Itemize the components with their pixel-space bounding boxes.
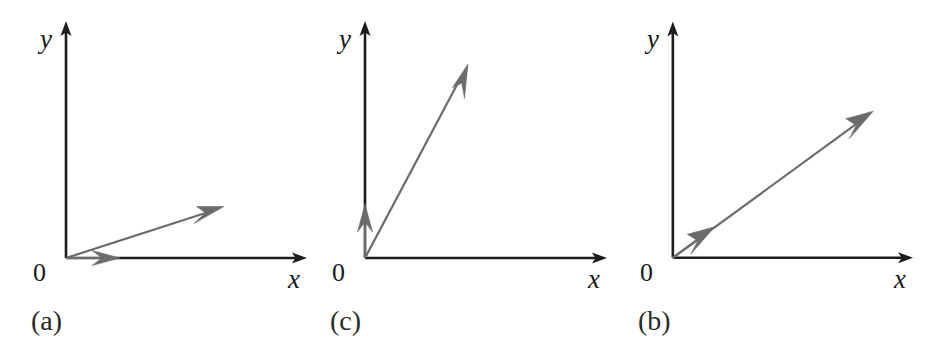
long-vector-arrowhead — [453, 64, 469, 99]
x-axis-label: x — [587, 264, 600, 294]
vector-figure: y x 0 (a) y x 0 (c) — [0, 0, 937, 356]
origin-label: 0 — [33, 258, 46, 287]
short-vector-arrowhead — [687, 227, 714, 254]
origin-label: 0 — [332, 258, 345, 287]
y-axis-label: y — [37, 24, 52, 54]
long-vector-line — [365, 84, 458, 258]
x-axis-label: x — [287, 264, 300, 294]
long-vector-arrowhead — [846, 111, 873, 138]
panel-b: y x 0 (b) — [624, 0, 936, 356]
panel-c-canvas: y x 0 (c) — [312, 0, 624, 356]
panel-a-canvas: y x 0 (a) — [0, 0, 312, 356]
y-axis-label: y — [644, 24, 659, 54]
panel-b-canvas: y x 0 (b) — [624, 0, 936, 356]
panel-c: y x 0 (c) — [312, 0, 624, 356]
origin-label: 0 — [640, 258, 653, 287]
panel-caption: (c) — [330, 305, 361, 336]
panel-a: y x 0 (a) — [0, 0, 312, 356]
x-axis-label: x — [893, 264, 906, 294]
panel-caption: (a) — [31, 305, 62, 336]
long-vector-line — [66, 213, 207, 259]
panel-caption: (b) — [638, 305, 671, 336]
y-axis-label: y — [336, 24, 351, 54]
